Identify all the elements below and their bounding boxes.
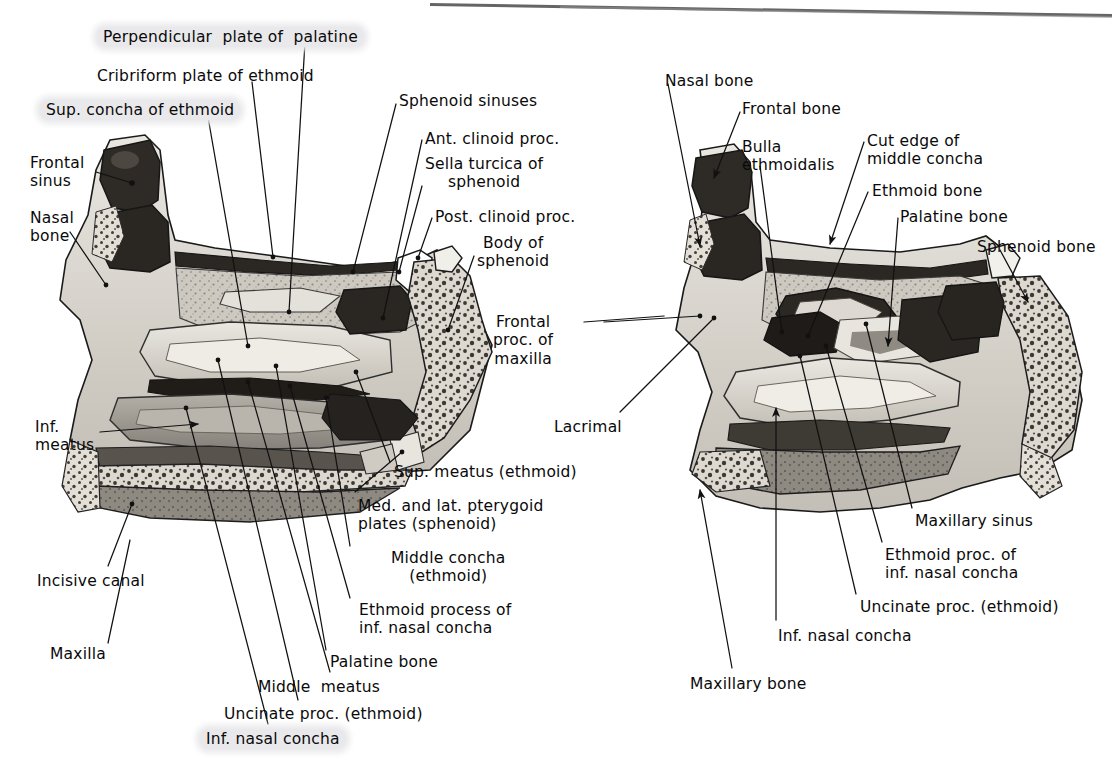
label-cribriform-plate: Cribriform plate of ethmoid <box>97 67 314 85</box>
label-frontal-sinus: Frontal sinus <box>30 154 84 191</box>
label-middle-concha-ethmoid: Middle concha (ethmoid) <box>391 549 505 586</box>
leader-frontal-proc-arrowhead <box>604 316 700 322</box>
leader-bulla-ethmoidalis <box>760 166 782 332</box>
label-sup-concha-of-ethmoid: Sup. concha of ethmoid <box>40 100 240 120</box>
leader-ant-clinoid <box>383 140 422 318</box>
leader-cut-edge-mc <box>830 142 864 244</box>
label-nasal-bone-left: Nasal bone <box>30 209 74 246</box>
leader-frontal-sinus <box>96 172 132 183</box>
label-maxilla: Maxilla <box>50 645 106 663</box>
label-perpendicular-plate: Perpendicular plate of palatine <box>97 27 364 47</box>
label-inf-meatus: Inf. meatus <box>35 418 94 455</box>
leader-inf-nasal-concha-left <box>186 408 268 724</box>
label-lacrimal: Lacrimal <box>554 418 622 436</box>
leader-middle-meatus <box>248 382 330 672</box>
label-post-clinoid-proc: Post. clinoid proc. <box>435 208 575 226</box>
label-uncinate-proc-ethmoid-right: Uncinate proc. (ethmoid) <box>860 598 1059 616</box>
leader-frontal-bone <box>714 112 740 178</box>
label-frontal-proc-of-maxilla: Frontal proc. of maxilla <box>493 313 553 368</box>
leader-body-of-sphenoid <box>448 256 474 330</box>
leader-ethmoid-bone <box>808 192 868 336</box>
leader-middle-concha <box>326 398 350 546</box>
label-maxillary-sinus: Maxillary sinus <box>915 512 1033 530</box>
label-palatine-bone-left: Palatine bone <box>330 653 438 671</box>
leader-maxilla <box>108 540 130 643</box>
leader-post-clinoid <box>418 218 432 258</box>
scan-edge-artifact <box>0 0 1112 28</box>
leader-inf-meatus <box>100 424 198 432</box>
label-nasal-bone-right: Nasal bone <box>665 72 754 90</box>
label-sup-meatus-ethmoid: Sup. meatus (ethmoid) <box>394 463 577 481</box>
leader-nasal-bone-left <box>70 232 106 285</box>
leader-incisive-canal <box>108 504 132 566</box>
label-cut-edge-of-middle-concha: Cut edge of middle concha <box>867 132 983 169</box>
leader-sup-concha <box>208 117 248 346</box>
leader-lacrimal <box>620 318 714 412</box>
leader-uncinate-left <box>218 360 298 700</box>
leader-palatine-bone-left <box>276 366 326 650</box>
label-frontal-bone: Frontal bone <box>742 100 841 118</box>
label-middle-meatus: Middle meatus <box>258 678 380 696</box>
anatomical-plate: Perpendicular plate of palatine Cribrifo… <box>0 0 1112 759</box>
leader-uncinate-right <box>800 356 856 594</box>
leader-sphenoid-sinuses <box>353 104 396 272</box>
leader-sup-meatus <box>356 372 390 462</box>
leader-terminal-dots <box>104 180 869 506</box>
label-pterygoid-plates: Med. and lat. pterygoid plates (sphenoid… <box>358 497 544 534</box>
leader-palatine-bone-right <box>888 218 898 346</box>
label-maxillary-bone: Maxillary bone <box>690 675 806 693</box>
leader-ethmoid-proc-right <box>826 346 882 542</box>
label-sphenoid-bone: Sphenoid bone <box>977 238 1096 256</box>
leader-maxillary-bone <box>700 490 732 668</box>
leader-cribriform-plate <box>252 82 273 257</box>
label-inf-nasal-concha-right: Inf. nasal concha <box>778 627 912 645</box>
label-ethmoid-bone: Ethmoid bone <box>872 182 982 200</box>
label-ethmoid-proc-inf-nasal-concha-right: Ethmoid proc. of inf. nasal concha <box>885 546 1019 583</box>
label-bulla-ethmoidalis: Bulla ethmoidalis <box>742 138 835 175</box>
label-body-of-sphenoid: Body of sphenoid <box>477 234 549 271</box>
leader-sella-turcica <box>399 186 422 272</box>
label-inf-nasal-concha-left: Inf. nasal concha <box>200 729 346 749</box>
leader-sphenoid-bone <box>1000 250 1028 302</box>
leader-maxillary-sinus <box>866 324 912 508</box>
label-ant-clinoid-proc: Ant. clinoid proc. <box>425 130 559 148</box>
label-ethmoid-process-inf-nasal-concha-left: Ethmoid process of inf. nasal concha <box>359 601 511 638</box>
label-palatine-bone-right: Palatine bone <box>900 208 1008 226</box>
label-incisive-canal: Incisive canal <box>37 572 145 590</box>
leader-nasal-bone-right <box>668 84 700 246</box>
label-sphenoid-sinuses: Sphenoid sinuses <box>399 92 537 110</box>
label-uncinate-proc-ethmoid-left: Uncinate proc. (ethmoid) <box>224 705 423 723</box>
leader-frontal-proc-maxilla <box>584 316 664 322</box>
leader-ethmoid-proc-left <box>290 386 350 598</box>
label-sella-turcica: Sella turcica of sphenoid <box>425 155 543 192</box>
